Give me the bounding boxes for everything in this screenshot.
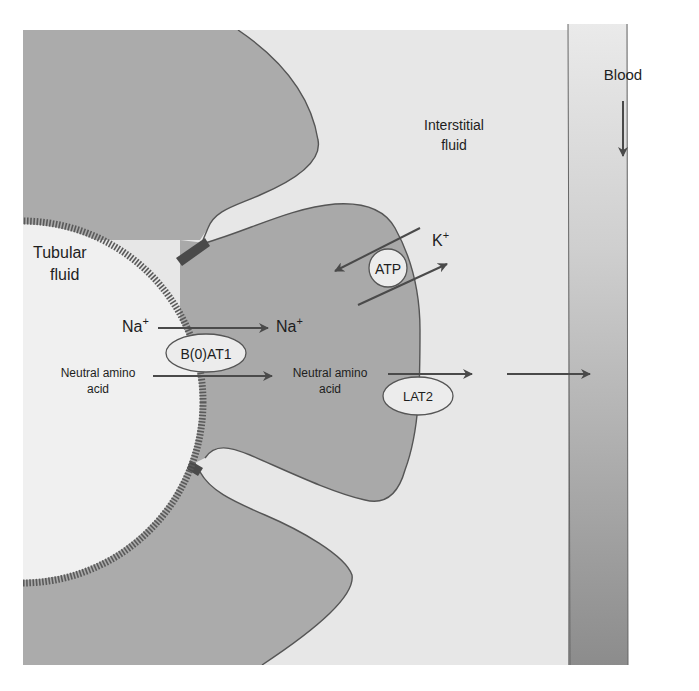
interstitial-fluid-label-line1: Interstitial bbox=[424, 117, 484, 133]
atp-label: ATP bbox=[375, 261, 401, 277]
blood-vessel bbox=[568, 24, 628, 665]
b0at1-transporter: B(0)AT1 bbox=[166, 334, 246, 372]
b0at1-label: B(0)AT1 bbox=[180, 346, 231, 362]
amino-acid-left-label-line1: Neutral amino bbox=[61, 366, 136, 380]
amino-acid-right-label-line2: acid bbox=[319, 382, 341, 396]
lat2-transporter: LAT2 bbox=[383, 377, 453, 415]
blood-label: Blood bbox=[604, 66, 642, 83]
amino-acid-right-label-line1: Neutral amino bbox=[293, 366, 368, 380]
amino-acid-transport-diagram: Tubular fluid Interstitial fluid Blood N… bbox=[0, 0, 699, 691]
na-k-atpase-pump: ATP bbox=[369, 249, 407, 287]
tubular-fluid-label-line1: Tubular bbox=[33, 244, 87, 261]
amino-acid-left-label-line2: acid bbox=[87, 382, 109, 396]
lat2-label: LAT2 bbox=[403, 389, 433, 404]
tubular-fluid-label-line2: fluid bbox=[50, 266, 79, 283]
interstitial-fluid-label-line2: fluid bbox=[441, 137, 467, 153]
